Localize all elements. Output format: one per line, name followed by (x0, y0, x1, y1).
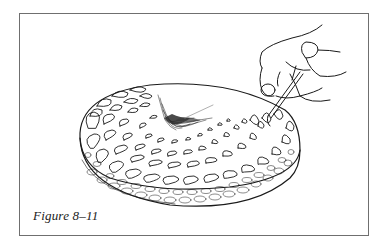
hand (260, 25, 346, 101)
piped-loops (86, 87, 294, 184)
figure-caption: Figure 8–11 (33, 208, 98, 224)
knife-cut-line (185, 105, 213, 118)
knife (267, 72, 303, 126)
spiral-center (158, 95, 212, 130)
